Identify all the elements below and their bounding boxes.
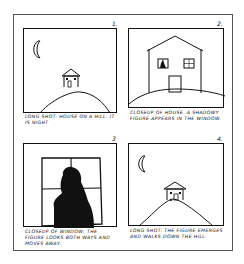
figure-silhouette xyxy=(54,167,94,228)
window-closeup-illustration xyxy=(24,144,118,228)
panel-number: 4. xyxy=(217,135,223,142)
hill xyxy=(40,92,110,113)
panel-caption: CLOSEUP OF WINDOW; THE FIGURE LOOKS BOTH… xyxy=(25,229,117,247)
panel-drawing xyxy=(128,143,224,226)
house-closeup-illustration xyxy=(129,29,225,109)
panel-drawing xyxy=(23,28,117,113)
moon-icon xyxy=(34,41,40,58)
moon-icon xyxy=(139,156,145,172)
house-walls xyxy=(167,189,183,200)
house-roof xyxy=(62,69,80,76)
panel-caption: LONG SHOT: HOUSE ON A HILL. IT IS NIGHT xyxy=(25,114,117,126)
hill xyxy=(139,199,213,226)
panel-caption: CLOSEUP OF HOUSE. A SHADOWY FIGURE APPEA… xyxy=(130,110,230,122)
panel-drawing xyxy=(23,143,117,227)
panel-number: 1. xyxy=(112,20,118,27)
hill xyxy=(129,89,225,104)
house-roof xyxy=(164,182,186,189)
panel-number: 3 xyxy=(112,135,116,142)
panel-drawing xyxy=(128,28,224,108)
night-figure-leaving-illustration xyxy=(129,144,225,227)
panel-number: 2. xyxy=(217,20,223,27)
house-walls xyxy=(149,49,201,93)
night-house-on-hill-illustration xyxy=(24,29,118,114)
panel-caption: LONG SHOT: THE FIGURE EMERGES AND WALKS … xyxy=(130,228,228,240)
house-roof xyxy=(147,36,203,51)
window-transom xyxy=(42,188,101,189)
